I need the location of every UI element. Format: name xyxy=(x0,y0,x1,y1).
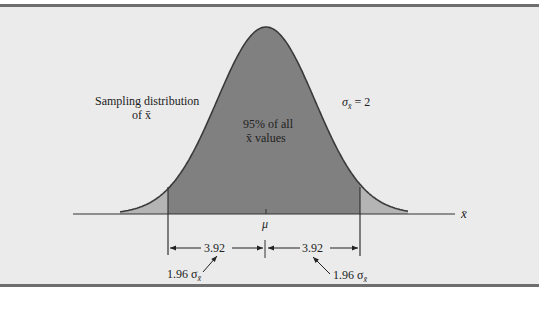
left-pointer-arrow xyxy=(203,256,217,272)
right-multiplier-label: 1.96 σx̄ xyxy=(333,268,367,284)
x-axis-label: x̄ xyxy=(460,206,467,221)
sampling-distribution-label: Sampling distribution xyxy=(95,94,199,108)
left-width-label: 3.92 xyxy=(204,241,225,255)
right-width-label: 3.92 xyxy=(302,241,323,255)
right-pointer-arrow xyxy=(313,257,330,274)
std-error-label: σx̄ = 2 xyxy=(342,95,370,111)
distribution-diagram: x̄ μ 3.92 3.92 1.96 σx̄ 1.96 σx̄ Samplin… xyxy=(0,0,539,312)
mean-label: μ xyxy=(261,217,268,231)
figure-root: x̄ μ 3.92 3.92 1.96 σx̄ 1.96 σx̄ Samplin… xyxy=(0,0,539,312)
left-multiplier-label: 1.96 σx̄ xyxy=(167,267,201,283)
sampling-distribution-label-2: of x̄ xyxy=(132,108,151,122)
center-area-label: 95% of all xyxy=(243,117,294,131)
center-area-label-2: x̄ values xyxy=(246,131,286,145)
